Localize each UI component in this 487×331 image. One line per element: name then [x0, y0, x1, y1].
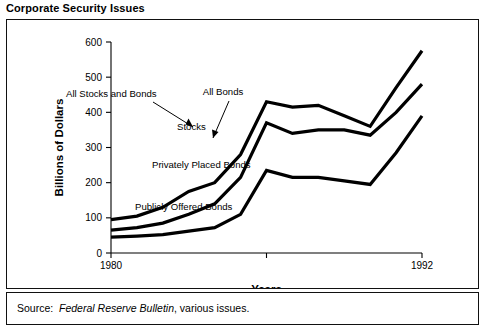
chart-frame: 010020030040050060019801992Billions of D… — [6, 19, 479, 289]
annotation-all-stocks-and-bonds: All Stocks and Bonds — [66, 88, 157, 99]
annotation-stocks: Stocks — [177, 121, 206, 132]
y-axis-tick-label: 300 — [85, 142, 102, 153]
annotation-all-bonds: All Bonds — [203, 86, 244, 97]
source-note: Source: Federal Reserve Bulletin, variou… — [6, 292, 479, 325]
series-line-publicly-offered-bonds — [111, 116, 422, 237]
source-text: Source: Federal Reserve Bulletin, variou… — [17, 302, 249, 314]
figure-page: Corporate Security Issues 01002003004005… — [0, 0, 487, 331]
source-prefix: Source: — [17, 302, 53, 314]
page-title: Corporate Security Issues — [6, 2, 145, 14]
y-axis-tick-label: 200 — [85, 177, 102, 188]
annotation-publicly-offered-bonds: Publicly Offered Bonds — [135, 201, 233, 212]
x-axis-tick-label: 1980 — [100, 260, 123, 271]
x-axis-title: Years — [251, 283, 282, 288]
y-axis-tick-label: 500 — [85, 72, 102, 83]
source-publication: Federal Reserve Bulletin — [59, 302, 174, 314]
y-axis-tick-label: 0 — [96, 248, 102, 259]
annotation-privately-placed-bonds: Privately Placed Bonds — [152, 159, 251, 170]
y-axis-tick-label: 100 — [85, 212, 102, 223]
y-axis-tick-label: 600 — [85, 37, 102, 48]
leader-arrowhead-all-bonds — [212, 130, 219, 139]
y-axis-tick-label: 400 — [85, 107, 102, 118]
y-axis-title: Billions of Dollars — [53, 99, 65, 197]
source-suffix: , various issues. — [174, 302, 249, 314]
x-axis-tick-label: 1992 — [411, 260, 434, 271]
series-line-all-stocks-and-bonds — [111, 51, 422, 220]
line-chart: 010020030040050060019801992Billions of D… — [7, 20, 478, 288]
